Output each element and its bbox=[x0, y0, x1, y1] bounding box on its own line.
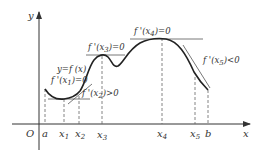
origin-label: O bbox=[26, 128, 34, 139]
tangent-x5 bbox=[183, 45, 210, 88]
svg-text:x2: x2 bbox=[75, 128, 86, 141]
derivative-diagram: y x O a x1 x2 x3 x4 x5 b y=f (x) f '(x1)… bbox=[0, 0, 263, 162]
svg-text:x4: x4 bbox=[157, 128, 167, 141]
annotation-x2: f '(x2)>0 bbox=[81, 88, 119, 100]
annotation-x4: f '(x4)=0 bbox=[133, 26, 171, 38]
svg-text:a: a bbox=[42, 128, 48, 139]
curve-label: y=f (x) bbox=[56, 64, 86, 74]
x-axis-label: x bbox=[243, 128, 249, 139]
annotations: y=f (x) f '(x1)=0 f '(x2)>0 f '(x3)=0 f … bbox=[50, 26, 240, 100]
annotation-x5: f '(x5)<0 bbox=[202, 55, 240, 67]
svg-text:x3: x3 bbox=[97, 129, 108, 142]
svg-text:x5: x5 bbox=[190, 128, 201, 141]
svg-text:b: b bbox=[205, 128, 211, 139]
svg-text:x1: x1 bbox=[59, 128, 69, 141]
annotation-x3: f '(x3)=0 bbox=[87, 42, 125, 54]
y-axis-label: y bbox=[27, 10, 34, 21]
x-tick-labels: a x1 x2 x3 x4 x5 b bbox=[42, 128, 211, 142]
